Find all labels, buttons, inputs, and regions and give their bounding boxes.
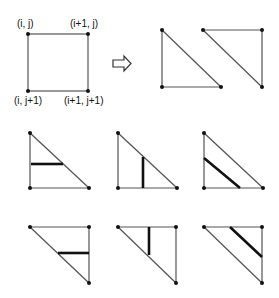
triangle [118, 227, 176, 283]
vertex [260, 85, 264, 89]
split-triangles [160, 28, 264, 89]
vertex [28, 131, 32, 135]
vertex [160, 28, 164, 32]
vertex [175, 186, 179, 190]
label-bottom-right: (i+1, j+1) [64, 95, 103, 106]
vertex [260, 281, 264, 285]
vertex-bottom-left [26, 89, 30, 93]
triangle [204, 133, 263, 188]
lower-left-cases [28, 131, 265, 190]
vertex [116, 131, 120, 135]
vertex [260, 28, 264, 32]
vertex [87, 186, 91, 190]
label-top-right: (i+1, j) [70, 18, 98, 29]
vertex [219, 85, 223, 89]
triangle [118, 133, 177, 188]
grid-cell-square: (i, j) (i+1, j) (i, j+1) (i+1, j+1) [14, 18, 103, 106]
case-horizontal [28, 131, 91, 190]
triangle [204, 227, 262, 283]
vertex [202, 186, 206, 190]
vertex [160, 85, 164, 89]
vertex [87, 281, 91, 285]
label-top-left: (i, j) [17, 18, 34, 29]
case-vertical [116, 131, 179, 190]
vertex [116, 225, 120, 229]
vertex [28, 225, 32, 229]
diagonal-segment [230, 227, 262, 257]
case-horizontal [28, 225, 91, 285]
vertex [174, 225, 178, 229]
vertex [261, 186, 265, 190]
right-arrow-icon [113, 56, 131, 71]
vertex [87, 225, 91, 229]
label-bottom-left: (i, j+1) [14, 95, 42, 106]
triangle [30, 133, 89, 188]
triangle [30, 227, 89, 283]
case-diagonal [202, 225, 264, 285]
vertex [28, 186, 32, 190]
case-diagonal [202, 131, 265, 190]
square-outline [28, 34, 88, 91]
vertex [260, 225, 264, 229]
vertex-bottom-right [86, 89, 90, 93]
diagonal-segment [204, 158, 240, 188]
vertex [174, 281, 178, 285]
case-vertical [116, 225, 178, 285]
upper-right-cases [28, 225, 264, 285]
vertex [202, 225, 206, 229]
vertex [202, 131, 206, 135]
vertex-top-left [26, 32, 30, 36]
vertex [116, 186, 120, 190]
vertex-top-right [86, 32, 90, 36]
vertex [201, 28, 205, 32]
diagram-canvas: (i, j) (i+1, j) (i, j+1) (i+1, j+1) [0, 0, 279, 298]
